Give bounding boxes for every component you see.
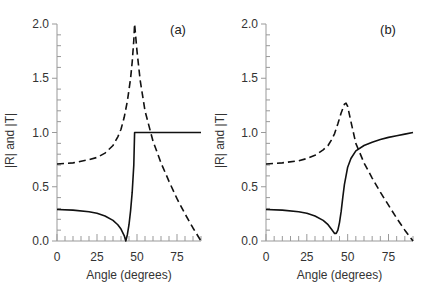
y-tick-label: 2.0: [32, 17, 49, 31]
panel-a: 0.00.51.01.52.00255075Angle (degrees)|R|…: [3, 17, 201, 282]
x-tick-label: 50: [341, 250, 355, 264]
x-tick-label: 75: [170, 250, 184, 264]
y-tick-label: 2.0: [241, 17, 258, 31]
x-tick-label: 0: [54, 250, 61, 264]
y-tick-label: 0.0: [32, 234, 49, 248]
panel-label: (a): [170, 22, 186, 37]
y-tick-label: 1.5: [32, 71, 49, 85]
y-tick-label: 0.5: [241, 180, 258, 194]
x-tick-label: 25: [90, 250, 104, 264]
series-line-solid: [57, 133, 201, 242]
x-axis-label: Angle (degrees): [297, 268, 382, 282]
panel-label: (b): [380, 22, 396, 37]
x-tick-label: 75: [382, 250, 396, 264]
y-tick-label: 0.0: [241, 234, 258, 248]
x-tick-label: 0: [263, 250, 270, 264]
y-tick-label: 0.5: [32, 180, 49, 194]
panel-b: 0.00.51.01.52.00255075Angle (degrees)|R|…: [213, 17, 413, 282]
y-tick-label: 1.0: [241, 126, 258, 140]
y-axis-label: |R| and |T|: [213, 113, 227, 168]
series-line-solid: [266, 133, 413, 234]
y-tick-label: 1.5: [241, 71, 258, 85]
x-tick-label: 25: [300, 250, 314, 264]
figure: 0.00.51.01.52.00255075Angle (degrees)|R|…: [0, 0, 434, 300]
x-axis-label: Angle (degrees): [86, 268, 171, 282]
x-tick-label: 50: [130, 250, 144, 264]
y-tick-label: 1.0: [32, 126, 49, 140]
y-axis-label: |R| and |T|: [3, 113, 17, 168]
